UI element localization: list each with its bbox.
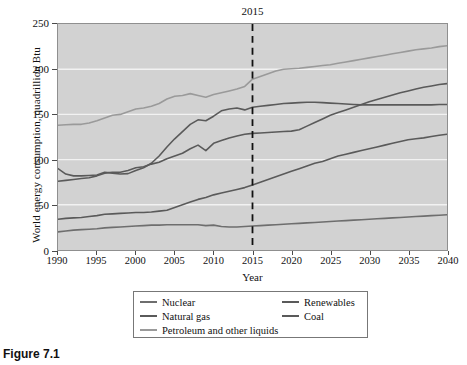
figure-container: World energy consumption, quadrillion Bt… [0, 0, 467, 365]
legend-item[interactable]: Nuclear [140, 295, 280, 309]
x-tick-mark [331, 251, 332, 255]
legend-label: Nuclear [162, 297, 195, 308]
legend-item[interactable]: Renewables [282, 295, 368, 309]
legend-label: Natural gas [162, 311, 210, 322]
x-tick-label: 2040 [425, 255, 467, 266]
legend-swatch-icon [282, 301, 299, 303]
y-tick-mark [52, 69, 57, 70]
x-tick-mark [57, 251, 58, 255]
y-tick-label: 100 [9, 154, 49, 166]
y-tick-label: 200 [9, 63, 49, 75]
x-tick-mark [448, 251, 449, 255]
x-axis-title: Year [57, 271, 448, 283]
legend-swatch-icon [140, 301, 157, 303]
legend-item[interactable]: Coal [282, 309, 368, 323]
y-tick-mark [52, 205, 57, 206]
x-tick-mark [135, 251, 136, 255]
y-axis-title: World energy consumption, quadrillion Bt… [30, 25, 42, 265]
plot-svg [58, 24, 447, 250]
x-tick-mark [213, 251, 214, 255]
y-tick-mark [52, 23, 57, 24]
x-tick-mark [253, 251, 254, 255]
legend-label: Renewables [304, 297, 355, 308]
figure-caption: Figure 7.1 [3, 347, 60, 361]
x-tick-mark [370, 251, 371, 255]
legend-label: Petroleum and other liquids [162, 325, 278, 336]
x-tick-mark [174, 251, 175, 255]
x-tick-mark [292, 251, 293, 255]
legend-column-right: RenewablesCoal [282, 295, 368, 323]
y-tick-mark [52, 160, 57, 161]
legend-swatch-icon [140, 315, 157, 317]
y-tick-label: 50 [9, 199, 49, 211]
plot-area [57, 23, 448, 251]
x-tick-mark [96, 251, 97, 255]
legend-item[interactable]: Petroleum and other liquids [140, 323, 280, 337]
chart-legend: NuclearNatural gasPetroleum and other li… [133, 291, 368, 338]
y-tick-mark [52, 114, 57, 115]
legend-swatch-icon [282, 315, 299, 317]
projection-year-annotation: 2015 [223, 5, 283, 17]
legend-item[interactable]: Natural gas [140, 309, 280, 323]
x-tick-mark [409, 251, 410, 255]
y-tick-label: 250 [9, 17, 49, 29]
legend-column-left: NuclearNatural gasPetroleum and other li… [140, 295, 280, 337]
y-tick-label: 150 [9, 108, 49, 120]
legend-swatch-icon [140, 329, 157, 331]
legend-label: Coal [304, 311, 324, 322]
